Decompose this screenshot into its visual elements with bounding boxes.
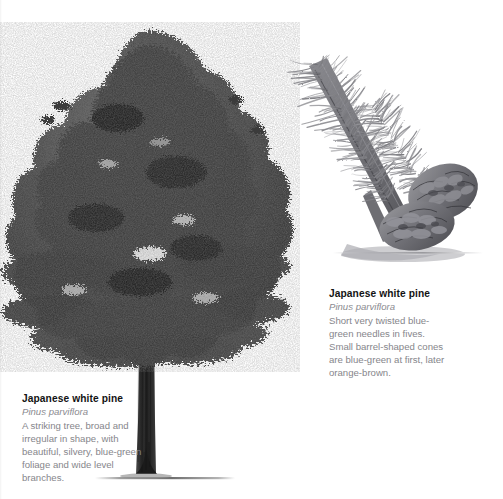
tree-canopy-shadows — [68, 104, 222, 296]
tree-canopy-highlights — [62, 138, 219, 303]
tree-detached-tufts — [41, 96, 265, 134]
tree-canopy-layer-2 — [35, 44, 259, 303]
tree-lower-branches — [2, 247, 290, 367]
tree-canopy — [6, 30, 293, 366]
pine-cone-lower — [375, 196, 458, 256]
caption-tree-latin-name: Pinus parviflora — [22, 406, 162, 419]
branch-illustration-svg — [275, 40, 503, 280]
branch-stem — [309, 58, 413, 242]
branch-illustration — [275, 40, 503, 280]
field-guide-page: Japanese white pine Pinus parviflora A s… — [0, 0, 503, 499]
caption-branch-description: Short very twisted blue- green needles i… — [329, 314, 489, 380]
branch-needles — [288, 55, 433, 202]
caption-branch-title: Japanese white pine — [329, 287, 489, 300]
caption-tree-title: Japanese white pine — [22, 392, 162, 405]
pine-cone-upper — [400, 153, 487, 230]
caption-branch: Japanese white pine Pinus parviflora Sho… — [329, 287, 489, 380]
branch-ground-shadow — [333, 244, 483, 262]
caption-tree-description: A striking tree, broad and irregular in … — [22, 419, 162, 485]
page-edge — [0, 0, 2, 499]
caption-tree: Japanese white pine Pinus parviflora A s… — [22, 392, 162, 485]
caption-branch-latin-name: Pinus parviflora — [329, 301, 489, 314]
tree-canopy-stipple — [0, 22, 300, 372]
